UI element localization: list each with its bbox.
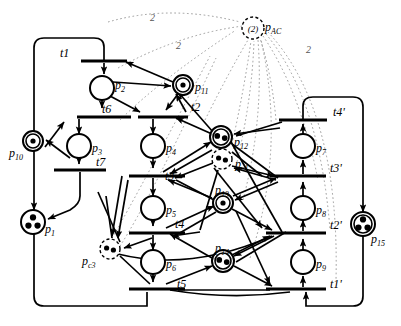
arc-t2p-p14 [234, 236, 274, 256]
token [355, 224, 361, 230]
place-pc3[interactable] [100, 239, 120, 259]
place-label-pAC: pAC [265, 21, 281, 36]
token [224, 259, 230, 265]
token [216, 257, 222, 263]
token [222, 135, 228, 141]
transition-label-t5: t5 [177, 278, 186, 290]
arc-p13-t2p [232, 209, 272, 230]
place-label-p15: p15 [371, 233, 385, 248]
dotted-arc-9 [263, 36, 318, 180]
place-circle [291, 250, 315, 274]
arc-p2-t2 [110, 96, 140, 112]
place-circle [90, 76, 114, 100]
token [214, 133, 220, 139]
transition-label-t6: t6 [102, 103, 111, 115]
place-label-p7: p7 [316, 142, 326, 157]
place-label-p11: p11 [195, 81, 208, 96]
arc-p14-t4 [170, 234, 212, 258]
transition-label-t3: t3 [165, 170, 174, 182]
token [104, 245, 109, 250]
arc-weight-label: 2 [306, 44, 311, 55]
arc-weight-label: 2 [150, 12, 155, 23]
place-circle [100, 239, 120, 259]
place-p11[interactable] [173, 75, 193, 95]
arc-p11-t2 [166, 94, 178, 110]
token [111, 247, 116, 252]
token [25, 222, 31, 228]
place-p8[interactable] [291, 196, 315, 220]
place-label-pc3: pc3 [82, 255, 96, 270]
place-circle [21, 210, 45, 234]
place-label-p2: p2 [115, 79, 125, 94]
transition-t3[interactable] [129, 175, 185, 178]
place-p3[interactable] [67, 134, 91, 158]
petri-net-figure: (2) p1p2p3p4p5p6p7p8p9p10p11p12p13p14p15… [0, 0, 401, 326]
place-circle [291, 134, 315, 158]
place-label-p6: p6 [166, 258, 176, 273]
transition-label-t2: t2 [191, 101, 200, 113]
transition-label-t4': t4' [333, 106, 345, 118]
place-label-p4: p4 [166, 142, 176, 157]
place-p6[interactable] [141, 250, 165, 274]
arc-t3p-p13 [235, 182, 278, 200]
transition-t4[interactable] [129, 232, 185, 235]
place-circle [67, 134, 91, 158]
place-label-p9: p9 [316, 258, 326, 273]
transition-label-t1': t1' [330, 278, 342, 290]
place-p9[interactable] [291, 250, 315, 274]
place-p5[interactable] [141, 196, 165, 220]
token [220, 200, 225, 205]
transition-label-t4: t4 [175, 218, 184, 230]
dotted-arc-1 [108, 13, 240, 22]
token [364, 224, 370, 230]
token [223, 157, 228, 162]
place-label-p13: p13 [215, 184, 229, 199]
transition-label-t2': t2' [330, 219, 342, 231]
arc-p11-t1 [126, 62, 173, 82]
arc-t4-pc3 [124, 238, 152, 248]
token [360, 216, 366, 222]
arc-p13-t3p [233, 178, 276, 196]
place-circle [141, 250, 165, 274]
token [34, 222, 40, 228]
arc-t3-p13-b [176, 180, 214, 200]
transition-label-t3': t3' [330, 162, 342, 174]
arc-t7-p1 [48, 172, 80, 219]
place-label-p10: p10 [9, 147, 23, 162]
place-circle [141, 134, 165, 158]
place-circle [212, 149, 232, 169]
token [216, 155, 221, 160]
place-label-pc1: pc1 [235, 158, 249, 173]
transition-label-t7: t7 [96, 156, 105, 168]
transition-t2[interactable] [138, 116, 188, 119]
arc-t7-pc3-b [106, 196, 112, 238]
token [30, 138, 35, 143]
loop-right-bottom [306, 236, 363, 306]
place-label-p12: p12 [234, 136, 248, 151]
arc-weight-label: 2 [176, 40, 181, 51]
place-label-p8: p8 [316, 204, 326, 219]
place-pc1[interactable] [212, 149, 232, 169]
dotted-arc-3 [205, 40, 248, 120]
place-p2[interactable] [90, 76, 114, 100]
place-p10[interactable] [23, 131, 43, 151]
place-p7[interactable] [291, 134, 315, 158]
place-circle [141, 196, 165, 220]
place-circle [291, 196, 315, 220]
transition-t1'[interactable] [266, 288, 326, 291]
token [30, 214, 36, 220]
place-pAC[interactable]: (2) [242, 17, 264, 39]
transition-t2'[interactable] [266, 232, 326, 235]
transition-t1[interactable] [81, 60, 127, 63]
place-weight-text: (2) [248, 24, 259, 34]
place-p4[interactable] [141, 134, 165, 158]
transition-label-t1: t1 [60, 47, 69, 59]
arc-p10-t6 [45, 122, 64, 147]
place-p1[interactable] [21, 210, 45, 234]
place-label-p1: p1 [45, 223, 55, 238]
place-label-p14: p14 [215, 242, 229, 257]
transition-t3'[interactable] [270, 175, 326, 178]
transition-t4'[interactable] [279, 119, 327, 122]
place-p12[interactable] [210, 126, 232, 148]
dotted-arc-4 [232, 41, 251, 144]
